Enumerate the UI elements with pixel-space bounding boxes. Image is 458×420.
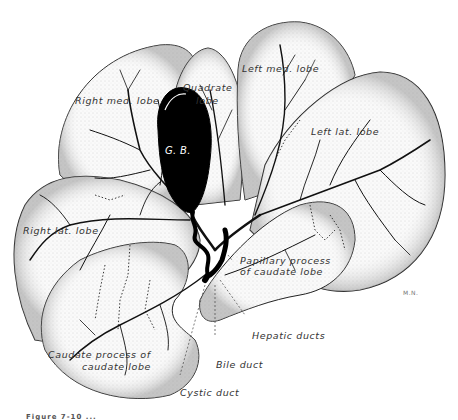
label-left-medial-lobe: Left med. lobe bbox=[242, 64, 319, 74]
label-caudate-process-2: caudate lobe bbox=[82, 362, 151, 372]
artist-signature: M.N. bbox=[403, 290, 418, 296]
label-hepatic-ducts: Hepatic ducts bbox=[252, 331, 325, 341]
label-caudate-process-1: Caudate process of bbox=[48, 350, 151, 360]
label-papillary-process-2: of caudate lobe bbox=[240, 267, 323, 277]
label-gall-bladder: G. B. bbox=[165, 146, 191, 156]
label-right-medial-lobe: Right med. lobe bbox=[75, 96, 160, 106]
label-cystic-duct: Cystic duct bbox=[180, 388, 239, 398]
label-quadrate-lobe-2: lobe bbox=[196, 96, 219, 106]
label-papillary-process-1: Papillary process bbox=[240, 256, 331, 266]
label-quadrate-lobe-1: Quadrate bbox=[183, 83, 232, 93]
figure-caption-truncated: Figure 7-10 ... bbox=[26, 413, 97, 420]
label-bile-duct: Bile duct bbox=[216, 360, 263, 370]
label-left-lateral-lobe: Left lat. lobe bbox=[311, 127, 379, 137]
label-right-lateral-lobe: Right lat. lobe bbox=[23, 226, 99, 236]
